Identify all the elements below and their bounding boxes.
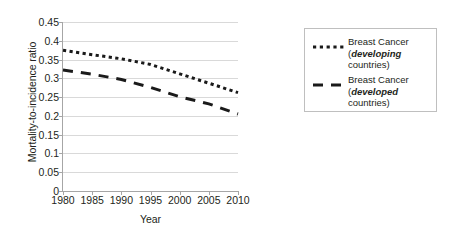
x-tick-label: 2000 xyxy=(168,194,191,206)
x-tick-label: 1985 xyxy=(80,194,103,206)
x-axis-title: Year xyxy=(63,213,238,225)
series-lines xyxy=(63,22,238,192)
legend-emphasis: developed xyxy=(351,86,398,97)
legend-label-line3: countries) xyxy=(348,59,409,71)
y-tick-label: 0.1 xyxy=(44,147,59,159)
legend-label-line2: (developed xyxy=(348,86,409,98)
legend-label-developing: Breast Cancer (developing countries) xyxy=(348,36,409,71)
y-tick-label: 0.45 xyxy=(39,16,59,28)
legend-label-developed: Breast Cancer (developed countries) xyxy=(348,74,409,109)
y-tick-label: 0.2 xyxy=(44,110,59,122)
legend-entry-developing: Breast Cancer (developing countries) xyxy=(312,36,432,71)
y-tick-label: 0.15 xyxy=(39,129,59,141)
legend-label-line1: Breast Cancer xyxy=(348,36,409,48)
y-tick-label: 0.3 xyxy=(44,72,59,84)
x-axis-tick-labels: 1980198519901995200020052010 xyxy=(63,194,238,210)
legend-label-line3: countries) xyxy=(348,97,409,109)
dotted-line-swatch xyxy=(312,39,348,51)
y-tick-label: 0.05 xyxy=(39,166,59,178)
y-axis-tick-labels: 00.050.10.150.20.250.30.350.40.45 xyxy=(0,22,59,192)
y-tick-label: 0.25 xyxy=(39,91,59,103)
x-tick-label: 2005 xyxy=(197,194,220,206)
chart-screenshot: Mortality-to-incidence ratio 00.050.10.1… xyxy=(0,0,449,246)
plot-area xyxy=(63,22,238,191)
legend-emphasis: developing xyxy=(351,48,401,59)
legend-label-line2: (developing xyxy=(348,48,409,60)
series-line-developing xyxy=(63,50,238,92)
x-tick-label: 2010 xyxy=(226,194,249,206)
y-tick-label: 0.4 xyxy=(44,35,59,47)
x-tick-label: 1995 xyxy=(139,194,162,206)
legend-entry-developed: Breast Cancer (developed countries) xyxy=(312,74,432,109)
dashed-line-swatch xyxy=(312,77,348,89)
series-line-developed xyxy=(63,70,238,114)
x-tick-label: 1990 xyxy=(110,194,133,206)
x-tick-label: 1980 xyxy=(51,194,74,206)
y-tick-label: 0.35 xyxy=(39,54,59,66)
line-chart-figure: Mortality-to-incidence ratio 00.050.10.1… xyxy=(0,0,290,246)
legend: Breast Cancer (developing countries) Bre… xyxy=(304,28,437,112)
legend-label-line1: Breast Cancer xyxy=(348,74,409,86)
